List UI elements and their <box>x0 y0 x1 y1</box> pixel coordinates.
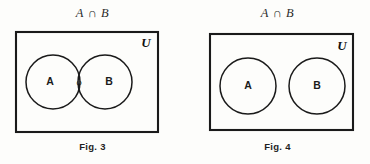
figure-4: A ∩ B A B U Fig. 4 <box>185 0 370 164</box>
figure-3-universal-set-rectangle <box>16 32 158 132</box>
figure-3-empty-set-symbol: φ <box>76 77 81 87</box>
figure-3: A ∩ B A B U φ Fig. 3 <box>0 0 185 164</box>
figure-3-caption: Fig. 3 <box>0 141 185 152</box>
figure-3-label-a: A <box>46 75 54 87</box>
venn-diagram-page: A ∩ B A B U φ Fig. 3 A ∩ B A B U Fig. 4 <box>0 0 370 164</box>
figure-4-label-b: B <box>313 79 321 91</box>
figure-4-universal-label: U <box>337 38 347 53</box>
figure-3-title: A ∩ B <box>0 6 185 21</box>
figure-4-label-a: A <box>244 79 252 91</box>
figure-3-universal-label: U <box>141 35 151 50</box>
figure-4-diagram: A B U <box>185 26 370 138</box>
figure-4-universal-set-rectangle <box>210 34 353 130</box>
figure-3-diagram: A B U φ <box>0 26 185 138</box>
figure-3-label-b: B <box>105 75 113 87</box>
figure-4-caption: Fig. 4 <box>185 141 370 152</box>
figure-4-title: A ∩ B <box>185 6 370 21</box>
